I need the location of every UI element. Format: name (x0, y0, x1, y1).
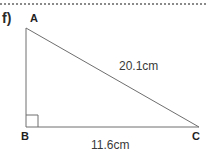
side-ac-hypotenuse-line (26, 28, 199, 127)
right-angle-marker-icon (26, 115, 38, 127)
vertex-label-c: C (192, 130, 200, 142)
measure-label-hypotenuse: 20.1cm (119, 59, 158, 73)
measure-label-base: 11.6cm (91, 138, 129, 152)
vertex-label-a: A (30, 12, 38, 24)
vertex-label-b: B (21, 130, 29, 142)
geometry-figure-page: f) A B C 20.1cm 11.6cm (0, 0, 206, 167)
